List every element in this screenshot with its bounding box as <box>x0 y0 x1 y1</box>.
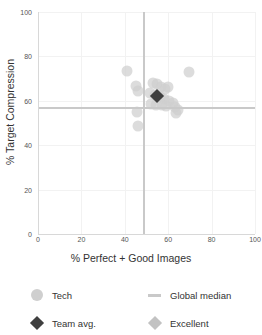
diamond-marker-icon <box>29 316 43 330</box>
gridline-horizontal <box>38 12 255 13</box>
y-tick-label: 100 <box>6 9 32 16</box>
median-reference-line <box>38 107 255 109</box>
gridline-horizontal <box>38 190 255 191</box>
y-axis-line <box>38 12 39 234</box>
legend-item-label: Tech <box>52 290 72 301</box>
data-point <box>121 65 132 76</box>
scatter-chart: 020406080100 020406080100 % Target Compr… <box>0 0 262 335</box>
legend-item[interactable]: Global median <box>148 290 250 301</box>
gridline-vertical <box>168 12 169 234</box>
gridline-vertical <box>125 12 126 234</box>
legend-item-label: Excellent <box>170 318 209 329</box>
plot-area <box>38 12 255 234</box>
x-tick-label: 60 <box>164 236 172 243</box>
gridline-vertical <box>81 12 82 234</box>
line-marker-icon <box>148 294 161 297</box>
x-tick-label: 0 <box>36 236 40 243</box>
data-point <box>132 85 143 96</box>
x-tick-label: 80 <box>208 236 216 243</box>
median-reference-line <box>143 12 145 234</box>
gridline-vertical <box>255 12 256 234</box>
data-point <box>163 82 174 93</box>
gridline-horizontal <box>38 145 255 146</box>
chart-legend: TechGlobal medianTeam avg.Excellent <box>30 281 250 335</box>
legend-item-label: Global median <box>170 290 231 301</box>
gridline-horizontal <box>38 56 255 57</box>
legend-item[interactable]: Tech <box>30 289 148 301</box>
y-axis-title: % Target Compression <box>4 59 16 165</box>
y-tick-label: 0 <box>6 231 32 238</box>
legend-item-label: Team avg. <box>52 318 96 329</box>
x-axis-title: % Perfect + Good Images <box>0 252 262 264</box>
circle-marker-icon <box>31 289 43 301</box>
data-point <box>183 66 194 77</box>
diamond-marker-icon <box>147 316 161 330</box>
legend-item[interactable]: Team avg. <box>30 318 148 329</box>
y-tick-label: 20 <box>6 186 32 193</box>
x-tick-label: 20 <box>77 236 85 243</box>
x-tick-label: 40 <box>121 236 129 243</box>
x-tick-label: 100 <box>249 236 261 243</box>
y-axis-title-wrap: % Target Compression <box>62 0 63 246</box>
gridline-vertical <box>212 12 213 234</box>
data-point <box>132 121 143 132</box>
x-axis-line <box>38 234 255 235</box>
legend-item[interactable]: Excellent <box>148 318 250 329</box>
